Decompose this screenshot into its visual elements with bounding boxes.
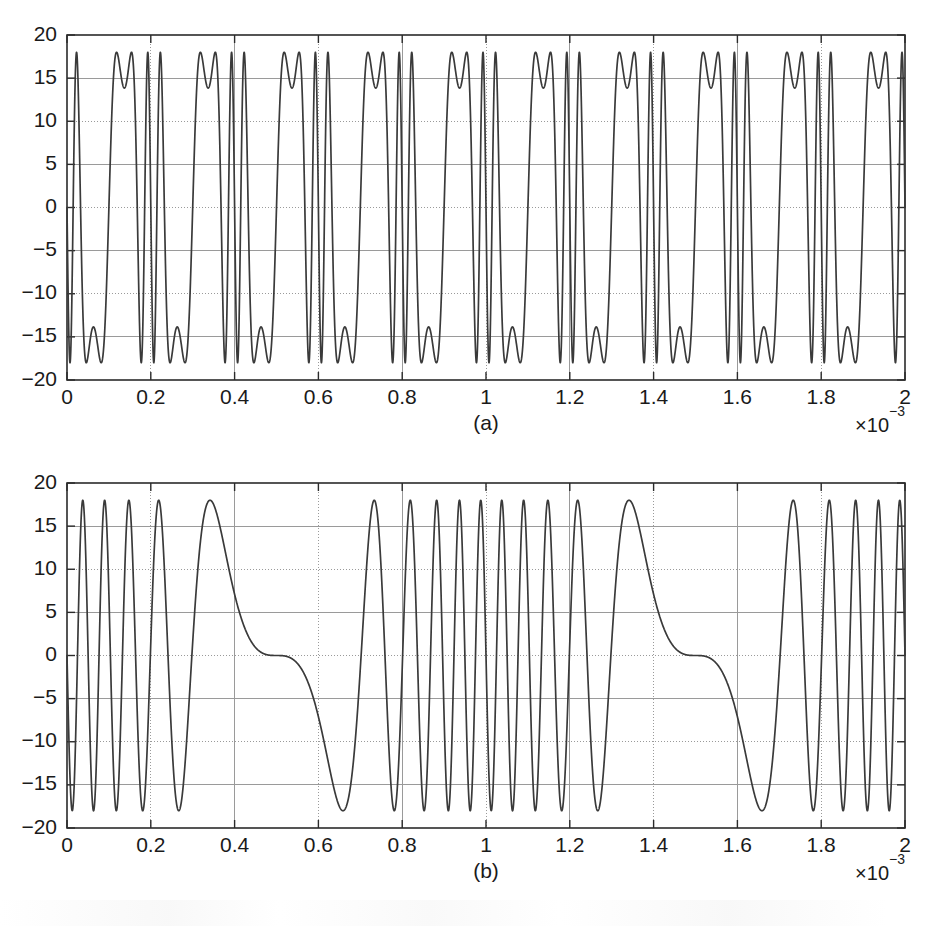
x-axis-labels-b: 00.20.40.60.811.21.41.61.82 — [61, 833, 911, 856]
y-tick-label: 5 — [45, 599, 57, 622]
panel-caption-a: (a) — [473, 411, 499, 434]
x-tick-label: 0.2 — [136, 385, 165, 408]
x-tick-label: 1.6 — [723, 385, 752, 408]
y-tick-label: −5 — [33, 237, 57, 260]
x-tick-label: 1.8 — [807, 385, 836, 408]
x-tick-label: 1.2 — [555, 833, 584, 856]
x-tick-label: 1.4 — [639, 385, 669, 408]
plot-a-svg: −20−15−10−505101520 00.20.40.60.811.21.4… — [0, 0, 933, 460]
y-axis-labels-a: −20−15−10−505101520 — [21, 22, 57, 390]
y-tick-label: −20 — [21, 815, 57, 838]
y-tick-label: −10 — [21, 280, 57, 303]
y-tick-label: 5 — [45, 151, 57, 174]
y-axis-labels-b: −20−15−10−505101520 — [21, 470, 57, 838]
x-tick-label: 1.2 — [555, 385, 584, 408]
panel-a: −20−15−10−505101520 00.20.40.60.811.21.4… — [0, 0, 933, 460]
x-axis-multiplier-a: ×10−3 — [855, 403, 905, 436]
plot-b-svg: −20−15−10−505101520 00.20.40.60.811.21.4… — [0, 450, 933, 926]
x-tick-label: 1.8 — [807, 833, 836, 856]
x-axis-multiplier-b: ×10−3 — [855, 851, 905, 884]
panel-caption-b: (b) — [473, 859, 499, 882]
x-tick-label: 1.6 — [723, 833, 752, 856]
y-tick-label: 15 — [34, 65, 57, 88]
y-tick-label: 0 — [45, 194, 57, 217]
figure-container: −20−15−10−505101520 00.20.40.60.811.21.4… — [0, 0, 933, 926]
y-tick-label: 15 — [34, 513, 57, 536]
x-tick-label: 0 — [61, 385, 73, 408]
y-tick-label: −20 — [21, 367, 57, 390]
y-tick-label: −10 — [21, 728, 57, 751]
x-tick-label: 0.2 — [136, 833, 165, 856]
panel-b: −20−15−10−505101520 00.20.40.60.811.21.4… — [0, 450, 933, 926]
x-tick-label: 0.8 — [388, 385, 417, 408]
page-edge-artifact — [0, 900, 933, 926]
x-tick-label: 1 — [480, 385, 492, 408]
x-tick-label: 0.6 — [304, 833, 333, 856]
x-tick-label: 0.6 — [304, 385, 333, 408]
y-tick-label: −15 — [21, 771, 57, 794]
y-tick-label: 20 — [34, 22, 57, 45]
x-tick-label: 1 — [480, 833, 492, 856]
y-tick-label: −15 — [21, 323, 57, 346]
x-tick-label: 1.4 — [639, 833, 669, 856]
x-tick-label: 0.4 — [220, 385, 250, 408]
y-tick-label: 10 — [34, 556, 57, 579]
y-tick-label: 10 — [34, 108, 57, 131]
y-tick-label: 0 — [45, 642, 57, 665]
y-tick-label: −5 — [33, 685, 57, 708]
y-tick-label: 20 — [34, 470, 57, 493]
x-tick-label: 0.4 — [220, 833, 250, 856]
x-axis-labels-a: 00.20.40.60.811.21.41.61.82 — [61, 385, 911, 408]
x-tick-label: 0 — [61, 833, 73, 856]
x-tick-label: 0.8 — [388, 833, 417, 856]
